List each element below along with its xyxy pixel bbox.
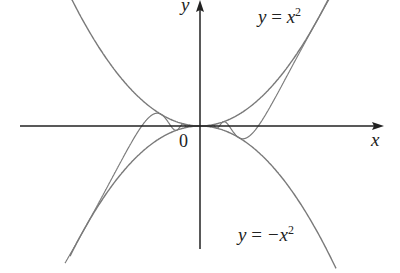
squeeze-diagram: y x 0 y = x2 y = −x2 (0, 0, 400, 273)
upper-curve-label: y = x2 (258, 5, 301, 28)
y-axis-label: y (181, 0, 189, 16)
lower-parabola (70, 126, 336, 268)
oscillating-curve (65, 0, 337, 263)
x-axis-label: x (371, 129, 379, 151)
lower-curve-label: y = −x2 (238, 223, 294, 246)
origin-label: 0 (179, 131, 188, 152)
plot-canvas (0, 0, 400, 273)
